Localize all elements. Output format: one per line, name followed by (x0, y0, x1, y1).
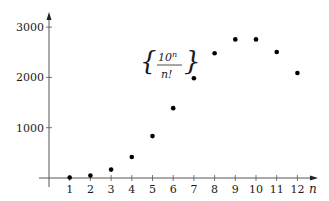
x-tick-label: 12 (290, 183, 304, 196)
data-point (192, 76, 197, 81)
data-point (274, 50, 279, 55)
axes: n (39, 12, 318, 196)
numerator: 10n (158, 50, 177, 64)
data-point (295, 71, 300, 76)
x-tick-label: 6 (170, 183, 177, 196)
data-point (67, 175, 72, 180)
y-tick-label: 3000 (16, 21, 44, 34)
left-brace: { (140, 46, 157, 76)
denominator: n! (161, 68, 173, 81)
y-ticks: 100020003000 (16, 21, 52, 135)
scatter-chart: n 123456789101112 100020003000 { 10n n! … (0, 0, 329, 201)
x-tick-label: 3 (108, 183, 115, 196)
y-axis-arrow-icon (47, 12, 52, 20)
x-tick-label: 2 (87, 183, 94, 196)
x-axis-arrow-icon (310, 176, 318, 181)
y-tick-label: 1000 (16, 122, 44, 135)
data-point (171, 106, 176, 111)
formula-annotation: { 10n n! } (140, 46, 201, 81)
data-point (130, 155, 135, 160)
x-tick-label: 4 (128, 183, 135, 196)
data-point (254, 37, 259, 42)
data-point (150, 134, 155, 139)
x-tick-label: 5 (149, 183, 156, 196)
x-tick-label: 10 (249, 183, 263, 196)
x-tick-label: 1 (66, 183, 73, 196)
data-point (212, 51, 217, 56)
data-point (88, 173, 93, 178)
x-tick-label: 7 (190, 183, 197, 196)
y-tick-label: 2000 (16, 71, 44, 84)
right-brace: } (184, 46, 201, 76)
x-tick-label: 9 (232, 183, 239, 196)
x-axis-label: n (309, 182, 317, 196)
data-point (109, 167, 114, 172)
x-tick-label: 8 (211, 183, 218, 196)
data-point (233, 37, 238, 42)
x-tick-label: 11 (270, 183, 284, 196)
